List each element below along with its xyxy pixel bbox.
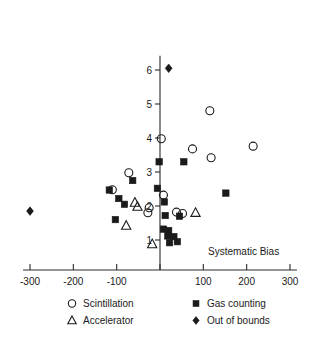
legend-item-gas-counting[interactable]: Gas counting: [193, 298, 266, 309]
marker-filled-diamond: [165, 64, 172, 73]
marker-open-circle: [125, 169, 133, 177]
marker-filled-square: [174, 239, 180, 245]
y-tick-label: 3: [146, 167, 152, 178]
chart-legend: ScintillationGas countingAcceleratorOut …: [68, 298, 270, 326]
marker-filled-square: [165, 233, 171, 239]
y-tick-label: 6: [146, 65, 152, 76]
marker-open-triangle: [191, 208, 200, 217]
chart-canvas: -300-200-100100200300 123456 Systematic …: [0, 0, 316, 342]
y-tick-label: 5: [146, 99, 152, 110]
legend-item-label: Out of bounds: [207, 315, 270, 326]
legend-item-accelerator[interactable]: Accelerator: [68, 315, 134, 326]
marker-filled-square: [154, 185, 160, 191]
marker-filled-square: [106, 187, 112, 193]
legend-item-label: Accelerator: [83, 315, 134, 326]
legend-item-label: Scintillation: [83, 298, 134, 309]
x-tick-label: -100: [107, 276, 127, 287]
marker-open-circle: [206, 107, 214, 115]
marker-filled-diamond: [193, 317, 199, 325]
marker-open-circle: [207, 154, 215, 162]
marker-open-circle: [68, 300, 75, 307]
marker-open-circle: [249, 142, 257, 150]
x-axis-ticks: -300-200-100100200300: [20, 264, 299, 287]
x-tick-label: -200: [63, 276, 83, 287]
marker-filled-square: [156, 159, 162, 165]
legend-item-scintillation[interactable]: Scintillation: [68, 298, 133, 309]
marker-open-circle: [188, 145, 196, 153]
data-points-layer: [27, 64, 258, 248]
y-tick-label: 2: [146, 201, 152, 212]
scatter-chart: -300-200-100100200300 123456 Systematic …: [0, 0, 316, 342]
marker-filled-square: [162, 212, 168, 218]
marker-filled-square: [112, 216, 118, 222]
marker-filled-square: [166, 240, 172, 246]
marker-filled-square: [121, 201, 127, 207]
marker-open-triangle: [68, 316, 76, 324]
marker-open-circle: [159, 191, 167, 199]
marker-filled-square: [223, 190, 229, 196]
marker-filled-square: [181, 159, 187, 165]
y-tick-label: 4: [146, 133, 152, 144]
marker-filled-square: [130, 177, 136, 183]
marker-filled-square: [161, 199, 167, 205]
x-tick-label: 200: [238, 276, 255, 287]
x-tick-label: 300: [282, 276, 299, 287]
marker-filled-square: [176, 213, 182, 219]
marker-filled-square: [116, 195, 122, 201]
y-axis-ticks: 123456: [146, 65, 160, 246]
x-tick-label: 100: [195, 276, 212, 287]
marker-open-circle: [157, 135, 165, 143]
marker-open-triangle: [122, 221, 131, 230]
legend-item-label: Gas counting: [207, 298, 266, 309]
x-tick-label: -300: [20, 276, 40, 287]
legend-item-out-of-bounds[interactable]: Out of bounds: [193, 315, 270, 326]
marker-filled-diamond: [27, 207, 34, 216]
x-axis-title: Systematic Bias: [208, 246, 279, 257]
marker-filled-square: [193, 301, 199, 307]
